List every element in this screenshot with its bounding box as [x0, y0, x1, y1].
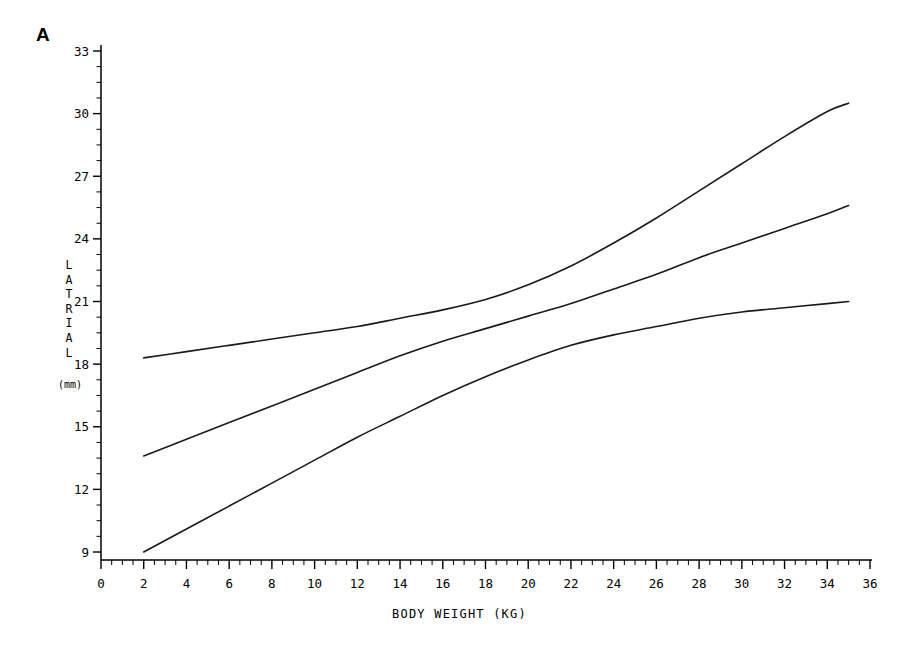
x-tick-label: 2: [140, 576, 148, 591]
y-axis-title: L A T R I A L: [58, 258, 80, 360]
y-tick-label: 33: [74, 44, 89, 59]
x-axis-title: BODY WEIGHT (KG): [0, 607, 919, 621]
panel-label: A: [36, 24, 50, 46]
x-tick-label: 8: [268, 576, 276, 591]
y-axis-title-char-2: T: [58, 287, 80, 302]
x-tick-label: 32: [777, 576, 792, 591]
y-tick-label: 15: [74, 419, 89, 434]
x-tick-label: 36: [862, 576, 877, 591]
y-axis-title-char-1: A: [58, 273, 80, 288]
y-axis-title-char-0: L: [58, 258, 80, 273]
x-tick-label: 18: [478, 576, 493, 591]
curve-middle: [144, 205, 849, 456]
x-tick-label: 24: [606, 576, 621, 591]
y-axis-title-char-3: R: [58, 302, 80, 317]
y-axis-unit: (mm): [50, 379, 90, 390]
y-axis-title-char-6: L: [58, 346, 80, 361]
x-tick-label: 12: [350, 576, 365, 591]
y-axis-title-char-5: A: [58, 331, 80, 346]
x-tick-label: 14: [393, 576, 408, 591]
y-tick-label: 12: [74, 482, 89, 497]
x-tick-label: 10: [307, 576, 322, 591]
x-tick-label: 22: [563, 576, 578, 591]
x-tick-label: 26: [649, 576, 664, 591]
x-tick-label: 0: [97, 576, 105, 591]
y-tick-label: 30: [74, 106, 89, 121]
x-tick-label: 30: [734, 576, 749, 591]
x-tick-label: 34: [820, 576, 835, 591]
x-tick-label: 16: [435, 576, 450, 591]
y-tick-label: 27: [74, 169, 89, 184]
plot-area: 91215182124273033 0246810121416182022242…: [0, 0, 919, 647]
x-tick-label: 4: [183, 576, 191, 591]
y-tick-label: 24: [74, 231, 89, 246]
x-tick-label: 20: [521, 576, 536, 591]
curve-lower: [144, 302, 849, 553]
x-axis: 024681012141618202224262830323436: [97, 560, 877, 591]
figure-panel-a: A L A T R I A L (mm) BODY WEIGHT (KG) 91…: [0, 0, 919, 647]
y-axis-title-char-4: I: [58, 316, 80, 331]
y-tick-label: 9: [81, 545, 89, 560]
curve-upper: [144, 103, 849, 358]
data-curves: [144, 103, 849, 552]
x-tick-label: 6: [225, 576, 233, 591]
x-tick-label: 28: [692, 576, 707, 591]
